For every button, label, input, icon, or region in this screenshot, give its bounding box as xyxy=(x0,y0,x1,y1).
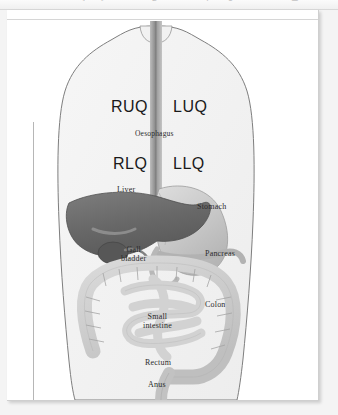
organ-label-gall-bladder-line1: Gall xyxy=(121,245,146,254)
organ-label-small-intestine: Small intestine xyxy=(143,312,172,330)
bold-icon[interactable]: B xyxy=(150,0,159,3)
anatomy-illustration xyxy=(7,21,318,400)
list-icon[interactable]: ☰ xyxy=(290,0,299,3)
quadrant-label-rlq: RLQ xyxy=(113,155,147,173)
organ-label-oesophagus: Oesophagus xyxy=(135,129,174,138)
page-horizontal-rule xyxy=(7,19,318,20)
quadrant-label-llq: LLQ xyxy=(173,155,205,173)
organ-label-rectum: Rectum xyxy=(145,358,171,367)
organ-label-gall-bladder: Gall bladder xyxy=(121,245,146,263)
align-icon[interactable]: ≡ xyxy=(245,0,254,3)
underline-icon[interactable]: U xyxy=(226,0,235,3)
document-page: RUQ LUQ RLQ LLQ Oesophagus Liver Stomach… xyxy=(7,10,319,401)
organ-label-pancreas: Pancreas xyxy=(205,249,235,258)
quadrant-label-luq: LUQ xyxy=(173,98,207,116)
italic-icon[interactable]: I xyxy=(203,0,212,3)
organ-label-small-intestine-line1: Small xyxy=(143,312,172,321)
organ-label-gall-bladder-line2: bladder xyxy=(121,254,146,263)
organ-label-stomach: Stomach xyxy=(197,202,226,211)
back-icon[interactable]: ◂ xyxy=(78,0,87,3)
quadrant-label-ruq: RUQ xyxy=(111,98,148,116)
organ-label-anus: Anus xyxy=(148,380,166,389)
oesophagus-organ xyxy=(150,21,162,197)
forward-icon[interactable]: ▸ xyxy=(99,0,108,3)
organ-label-liver: Liver xyxy=(117,185,135,194)
anatomy-figure: RUQ LUQ RLQ LLQ Oesophagus Liver Stomach… xyxy=(7,21,318,400)
screenshot-root: ◂ ▸ B I U ≡ ☰ xyxy=(0,0,338,415)
organ-label-colon: Colon xyxy=(205,300,226,309)
toolbar-strip: ◂ ▸ B I U ≡ ☰ xyxy=(0,0,338,10)
organ-label-small-intestine-line2: intestine xyxy=(143,321,172,330)
